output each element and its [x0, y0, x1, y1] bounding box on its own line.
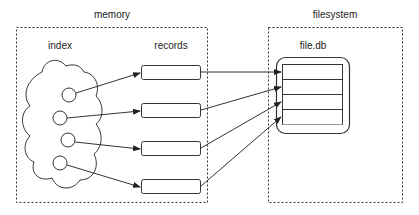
arrow-index4-record4 [67, 165, 140, 187]
record-box-2 [142, 104, 201, 118]
arrow-record2-filerow2 [201, 87, 281, 110]
file-row-2 [283, 80, 343, 95]
memory-group-label: memory [94, 9, 130, 20]
record-box-3 [142, 142, 201, 156]
index-label: index [48, 40, 72, 51]
index-node-4 [53, 156, 67, 170]
index-node-2 [53, 111, 67, 125]
file-db-label: file.db [300, 40, 327, 51]
record-box-1 [142, 66, 201, 80]
file-row-3 [283, 95, 343, 110]
records-label: records [154, 40, 187, 51]
index-node-3 [61, 133, 75, 147]
file-row-5 [283, 125, 343, 128]
file-row-4 [283, 110, 343, 125]
filesystem-group-label: filesystem [313, 9, 357, 20]
diagram-canvas: memory index records filesystem [0, 0, 419, 215]
memory-group: memory index records [17, 9, 208, 203]
record-box-4 [142, 180, 201, 194]
index-node-1 [62, 88, 76, 102]
filesystem-group: filesystem file.db [269, 9, 403, 203]
file-row-1 [283, 65, 343, 80]
arrow-index1-record1 [76, 73, 140, 93]
arrow-index3-record3 [75, 142, 140, 149]
arrow-index2-record2 [67, 111, 140, 118]
